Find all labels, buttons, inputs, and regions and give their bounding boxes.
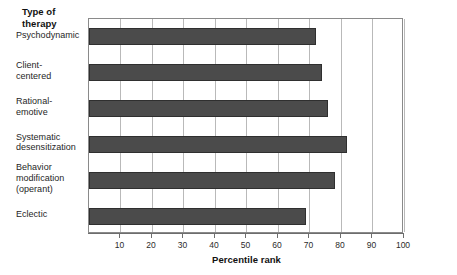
x-tick-30	[182, 233, 183, 238]
x-tick-label: 90	[367, 240, 376, 250]
x-tick-70	[308, 233, 309, 238]
category-label: Client-centered	[16, 60, 86, 81]
bar	[89, 64, 322, 81]
bar	[89, 136, 347, 153]
category-label-line: desensitization	[16, 142, 86, 153]
category-label: Psychodynamic	[16, 30, 86, 41]
category-label-line: Behavior	[16, 162, 86, 173]
bar	[89, 28, 316, 45]
x-tick-80	[340, 233, 341, 238]
category-labels: PsychodynamicClient-centeredRational-emo…	[16, 18, 86, 233]
category-label-line: Client-	[16, 60, 86, 71]
bars-layer	[89, 19, 402, 232]
x-tick-label: 60	[272, 240, 281, 250]
x-tick-label: 20	[146, 240, 155, 250]
x-tick-label: 10	[115, 240, 124, 250]
x-tick-60	[277, 233, 278, 238]
bar	[89, 208, 306, 225]
category-label-line: (operant)	[16, 184, 86, 195]
x-axis-title: Percentile rank	[0, 254, 457, 265]
bar	[89, 172, 335, 189]
x-tick-50	[245, 233, 246, 238]
category-label-line: Psychodynamic	[16, 30, 86, 41]
category-label-line: Eclectic	[16, 209, 86, 220]
category-label-line: Rational-	[16, 96, 86, 107]
x-tick-40	[214, 233, 215, 238]
category-label-line: modification	[16, 173, 86, 184]
bar-chart: Type of therapy PsychodynamicClient-cent…	[0, 0, 457, 275]
x-tick-100	[403, 233, 404, 238]
category-label-line: centered	[16, 71, 86, 82]
x-axis-title-text: Percentile rank	[212, 254, 281, 265]
x-tick-10	[119, 233, 120, 238]
category-label-line: Systematic	[16, 132, 86, 143]
x-tick-20	[151, 233, 152, 238]
x-tick-label: 30	[178, 240, 187, 250]
category-label: Rational-emotive	[16, 96, 86, 117]
x-tick-label: 80	[335, 240, 344, 250]
x-tick-90	[371, 233, 372, 238]
x-tick-label: 70	[304, 240, 313, 250]
category-label: Systematicdesensitization	[16, 132, 86, 153]
x-tick-label: 50	[241, 240, 250, 250]
plot-area	[88, 18, 403, 233]
gridline-100	[404, 19, 405, 232]
category-label-line: emotive	[16, 107, 86, 118]
category-label: Behaviormodification(operant)	[16, 162, 86, 194]
x-tick-label: 40	[209, 240, 218, 250]
category-label: Eclectic	[16, 209, 86, 220]
x-tick-label: 100	[396, 240, 410, 250]
bar	[89, 100, 328, 117]
y-axis-title-line-1: Type of	[22, 6, 92, 18]
